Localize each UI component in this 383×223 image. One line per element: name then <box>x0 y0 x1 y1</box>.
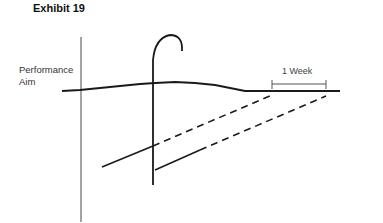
trend-line-2-solid <box>155 150 200 170</box>
trend-line-1-projection <box>153 95 272 146</box>
trend-line-2-projection <box>200 96 326 150</box>
trend-line-1-solid <box>102 146 153 167</box>
one-week-bracket <box>272 80 326 89</box>
diagram-canvas <box>0 0 383 223</box>
performance-aim-line <box>62 82 340 91</box>
intervention-hook <box>153 35 182 185</box>
